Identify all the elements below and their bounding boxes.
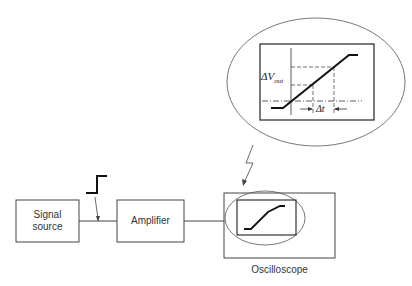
delta-v-label: ΔVout bbox=[261, 70, 283, 87]
signal-source-label-line1: Signal bbox=[16, 209, 79, 221]
oscilloscope-label: Oscilloscope bbox=[224, 264, 335, 276]
delta-v-subscript: out bbox=[274, 77, 283, 85]
zoom-callout-arrowhead-icon bbox=[242, 179, 247, 186]
scope-trace-small bbox=[244, 206, 285, 229]
delta-t-label: Δt bbox=[316, 103, 325, 115]
oscilloscope-box bbox=[224, 193, 335, 258]
scope-trace-large bbox=[271, 55, 358, 108]
zoom-callout-connector bbox=[244, 145, 253, 183]
signal-source-label-line2: source bbox=[16, 221, 79, 233]
signal-source-label: Signal source bbox=[16, 209, 79, 233]
step-arrow bbox=[95, 197, 98, 219]
delta-v-text: ΔV bbox=[261, 70, 274, 82]
amplifier-label: Amplifier bbox=[117, 215, 184, 227]
block-diagram bbox=[0, 0, 412, 286]
delta-t-arrowhead-right-icon bbox=[334, 107, 339, 111]
delta-t-arrowhead-left-icon bbox=[308, 107, 313, 111]
step-input-waveform bbox=[86, 176, 107, 193]
